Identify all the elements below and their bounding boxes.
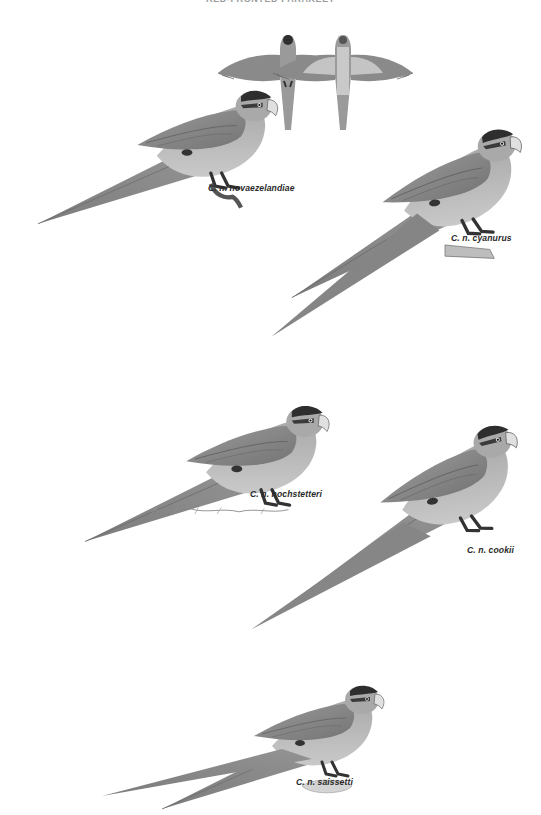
label-saissetti: C. n. saissetti — [296, 777, 353, 787]
label-hochstetteri: C. n. hochstetteri — [250, 489, 322, 499]
label-cookii: C. n. cookii — [467, 545, 514, 555]
bird-hochstetteri — [85, 406, 329, 541]
label-novaezelandiae: C. n. novaezelandiae — [208, 183, 295, 193]
bird-saissetti — [102, 686, 384, 809]
illustration-plate — [0, 0, 541, 815]
bird-novaezelandiae — [38, 91, 278, 224]
label-cyanurus: C. n. cyanurus — [451, 233, 512, 243]
bird-cyanurus — [271, 126, 538, 336]
